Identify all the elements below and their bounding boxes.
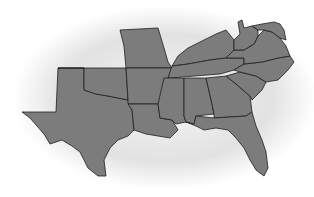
southern-states-map	[0, 0, 314, 197]
state-mississippi	[158, 78, 186, 124]
